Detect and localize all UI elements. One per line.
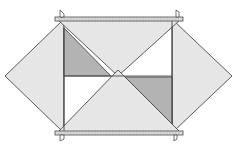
- origami-kite-diagram: [0, 0, 235, 155]
